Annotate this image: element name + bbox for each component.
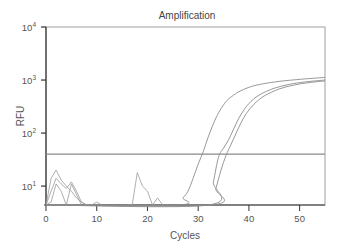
y-tick-label: 102 (22, 127, 37, 139)
x-tick-label: 10 (91, 213, 102, 224)
plot-frame (46, 27, 325, 205)
x-tick-label: 0 (43, 213, 48, 224)
y-tick-label: 101 (22, 180, 37, 192)
x-ticks: 01020304050 (43, 205, 305, 224)
noise-trace (46, 184, 82, 205)
noise-trace (127, 173, 168, 205)
x-tick-label: 40 (244, 213, 255, 224)
amplification-chart: Amplification 101102103104 01020304050 R… (0, 0, 341, 251)
x-tick-label: 20 (142, 213, 153, 224)
x-axis-label: Cycles (170, 230, 200, 241)
amplification-curve[interactable] (46, 77, 325, 205)
amplification-curve[interactable] (46, 80, 325, 207)
y-tick-label: 104 (22, 21, 37, 33)
amplification-curve[interactable] (46, 81, 325, 206)
plot-area (46, 77, 325, 206)
y-axis-label: RFU (15, 106, 26, 127)
x-tick-label: 50 (294, 213, 305, 224)
x-tick-label: 30 (193, 213, 204, 224)
chart-title: Amplification (159, 10, 216, 21)
y-tick-label: 103 (22, 74, 37, 86)
